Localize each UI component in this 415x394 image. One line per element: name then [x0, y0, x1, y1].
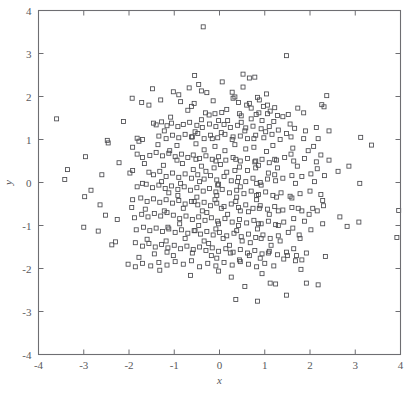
- scatter-plot-figure: -4-3-2-101234 -4-3-2-101234 x y: [0, 0, 415, 394]
- x-tick-label: 2: [307, 359, 313, 371]
- x-tick-label: 0: [217, 359, 223, 371]
- y-axis-title: y: [2, 180, 14, 186]
- x-tick-label: -4: [34, 359, 44, 371]
- y-tick-label: 4: [26, 5, 32, 17]
- x-tick-label: -3: [79, 359, 89, 371]
- x-axis-title: x: [216, 374, 222, 386]
- plot-canvas: -4-3-2-101234 -4-3-2-101234 x y: [0, 0, 415, 394]
- y-tick-label: -3: [22, 306, 32, 318]
- y-tick-label: 1: [26, 134, 32, 146]
- x-tick-label: 3: [353, 359, 359, 371]
- plot-background: [0, 0, 415, 394]
- y-tick-label: -4: [22, 349, 32, 361]
- y-tick-label: -2: [22, 263, 31, 275]
- y-tick-label: 3: [26, 48, 32, 60]
- x-tick-label: -1: [170, 359, 179, 371]
- x-tick-label: 4: [398, 359, 404, 371]
- x-tick-label: -2: [124, 359, 133, 371]
- y-tick-label: -1: [22, 220, 31, 232]
- y-tick-label: 2: [26, 91, 32, 103]
- y-tick-label: 0: [26, 177, 32, 189]
- x-tick-label: 1: [262, 359, 268, 371]
